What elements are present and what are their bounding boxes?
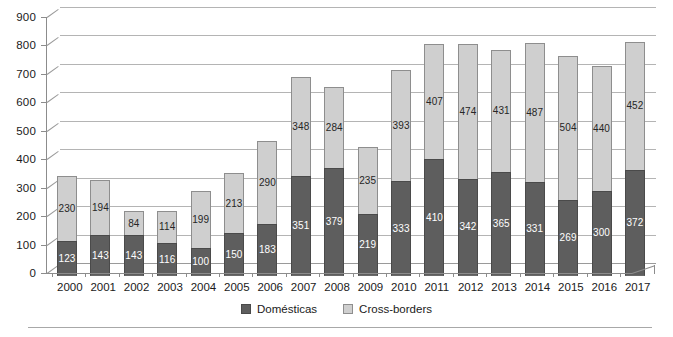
bar-segment-cross-borders[interactable]: 84 — [124, 211, 144, 235]
bar-column[interactable]: 114116 — [157, 20, 177, 276]
bar-value-label: 342 — [459, 222, 476, 232]
legend-swatch-cross-borders-icon — [343, 304, 353, 314]
bar-segment-cross-borders[interactable]: 284 — [324, 87, 344, 168]
bar-value-label: 379 — [326, 217, 343, 227]
bar-value-label: 407 — [426, 97, 443, 107]
bar-value-label: 230 — [59, 204, 76, 214]
bar-segment-cross-borders[interactable]: 407 — [424, 44, 444, 160]
bar-value-label: 351 — [292, 221, 309, 231]
bar-value-label: 474 — [459, 107, 476, 117]
x-axis-label: 2000 — [57, 281, 77, 299]
bar-segment-domesticas[interactable]: 123 — [57, 241, 77, 276]
bar-segment-domesticas[interactable]: 365 — [491, 172, 511, 276]
bar-value-label: 269 — [560, 233, 577, 243]
bar-column[interactable]: 440300 — [592, 20, 612, 276]
bar-segment-domesticas[interactable]: 333 — [391, 181, 411, 276]
bar-column[interactable]: 393333 — [391, 20, 411, 276]
bar-segment-domesticas[interactable]: 331 — [525, 182, 545, 276]
bar-segment-domesticas[interactable]: 100 — [191, 248, 211, 276]
bar-segment-cross-borders[interactable]: 440 — [592, 66, 612, 191]
bar-column[interactable]: 194143 — [90, 20, 110, 276]
plot-area: 2301231941438414311411619910021315029018… — [47, 14, 651, 276]
bar-segment-domesticas[interactable]: 269 — [558, 200, 578, 277]
legend-item[interactable]: Cross-borders — [343, 303, 432, 315]
bar-segment-domesticas[interactable]: 183 — [257, 224, 277, 276]
legend-swatch-domesticas-icon — [241, 304, 251, 314]
x-axis-tick-mark — [419, 273, 420, 277]
y-axis-tick-label: 500 — [16, 125, 36, 137]
bar-segment-domesticas[interactable]: 116 — [157, 243, 177, 276]
bar-segment-domesticas[interactable]: 379 — [324, 168, 344, 276]
bar-column[interactable]: 235219 — [358, 20, 378, 276]
bar-segment-domesticas[interactable]: 143 — [124, 235, 144, 276]
bar-column[interactable]: 407410 — [424, 20, 444, 276]
legend-item[interactable]: Domésticas — [241, 303, 317, 315]
bar-column[interactable]: 504269 — [558, 20, 578, 276]
x-axis-label: 2013 — [491, 281, 511, 299]
bar-value-label: 431 — [493, 106, 510, 116]
bar-segment-cross-borders[interactable]: 504 — [558, 56, 578, 199]
bar-column[interactable]: 452372 — [625, 20, 645, 276]
bar-segment-cross-borders[interactable]: 230 — [57, 176, 77, 241]
bar-segment-cross-borders[interactable]: 431 — [491, 50, 511, 173]
bar-segment-domesticas[interactable]: 300 — [592, 191, 612, 276]
footer-divider — [28, 327, 652, 328]
y-axis-tick-label: 600 — [16, 96, 36, 108]
legend-label: Domésticas — [257, 303, 317, 315]
x-axis-tick-mark — [386, 273, 387, 277]
y-axis-tick-label: 900 — [16, 11, 36, 23]
bar-segment-domesticas[interactable]: 143 — [90, 235, 110, 276]
bar-segment-cross-borders[interactable]: 213 — [224, 173, 244, 234]
bar-value-label: 372 — [626, 218, 643, 228]
bar-segment-domesticas[interactable]: 351 — [291, 176, 311, 276]
x-axis-label: 2002 — [124, 281, 144, 299]
bar-column[interactable]: 284379 — [324, 20, 344, 276]
bar-segment-cross-borders[interactable]: 393 — [391, 70, 411, 182]
bar-column[interactable]: 474342 — [458, 20, 478, 276]
bar-value-label: 284 — [326, 123, 343, 133]
bar-segment-cross-borders[interactable]: 199 — [191, 191, 211, 248]
bar-value-label: 504 — [560, 123, 577, 133]
y-axis-tick-label: 0 — [29, 267, 36, 279]
bar-segment-cross-borders[interactable]: 348 — [291, 77, 311, 176]
bar-value-label: 114 — [159, 222, 175, 232]
x-axis-label: 2014 — [525, 281, 545, 299]
x-axis-label: 2017 — [625, 281, 645, 299]
bar-column[interactable]: 230123 — [57, 20, 77, 276]
chart-figure: 9008007006005004003002001000 23012319414… — [0, 0, 673, 337]
x-axis-label: 2011 — [424, 281, 444, 299]
x-axis-tick-mark — [119, 273, 120, 277]
bar-column[interactable]: 487331 — [525, 20, 545, 276]
x-axis-label: 2004 — [191, 281, 211, 299]
bar-value-label: 143 — [125, 251, 142, 261]
x-axis-tick-mark — [520, 273, 521, 277]
bar-value-label: 84 — [128, 219, 139, 229]
bar-segment-domesticas[interactable]: 150 — [224, 233, 244, 276]
bar-segment-domesticas[interactable]: 372 — [625, 170, 645, 276]
bar-column[interactable]: 213150 — [224, 20, 244, 276]
bar-segment-domesticas[interactable]: 342 — [458, 179, 478, 276]
bar-segment-cross-borders[interactable]: 487 — [525, 43, 545, 182]
y-axis-tick-label: 300 — [16, 182, 36, 194]
x-axis-tick-mark — [620, 273, 621, 277]
bar-segment-cross-borders[interactable]: 290 — [257, 141, 277, 223]
bar-value-label: 199 — [192, 215, 209, 225]
y-axis-tick-label: 200 — [16, 210, 36, 222]
bar-segment-cross-borders[interactable]: 474 — [458, 44, 478, 179]
bar-column[interactable]: 199100 — [191, 20, 211, 276]
bar-segment-cross-borders[interactable]: 114 — [157, 211, 177, 243]
bar-value-label: 219 — [359, 240, 376, 250]
bar-column[interactable]: 348351 — [291, 20, 311, 276]
bar-column[interactable]: 84143 — [124, 20, 144, 276]
bar-segment-cross-borders[interactable]: 194 — [90, 180, 110, 235]
bar-column[interactable]: 290183 — [257, 20, 277, 276]
bar-segment-domesticas[interactable]: 410 — [424, 159, 444, 276]
y-axis-tick-label: 700 — [16, 68, 36, 80]
bar-value-label: 123 — [59, 254, 76, 264]
bar-segment-cross-borders[interactable]: 452 — [625, 42, 645, 171]
bar-segment-domesticas[interactable]: 219 — [358, 214, 378, 276]
bar-value-label: 300 — [593, 228, 610, 238]
bar-column[interactable]: 431365 — [491, 20, 511, 276]
bar-segment-cross-borders[interactable]: 235 — [358, 147, 378, 214]
x-axis-tick-mark — [252, 273, 253, 277]
